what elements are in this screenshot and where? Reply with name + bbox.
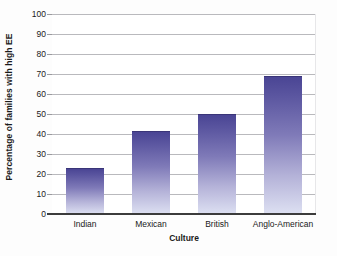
y-axis-tick-label: 70	[20, 70, 46, 79]
y-axis-tick-label: 20	[20, 170, 46, 179]
plot-area	[52, 14, 316, 214]
bar	[132, 131, 170, 214]
y-axis-tick-label: 30	[20, 150, 46, 159]
y-axis-tick-mark	[47, 114, 52, 115]
x-axis-tick-label: Anglo-American	[253, 217, 313, 231]
y-axis-title: Percentage of families with high EE	[0, 0, 18, 214]
y-axis-tick-label: 50	[20, 110, 46, 119]
y-axis-tick-mark	[47, 54, 52, 55]
y-axis-tick-label: 100	[20, 10, 46, 19]
y-axis-tick-mark	[47, 34, 52, 35]
gridline	[52, 54, 315, 55]
y-axis-tick-label: 60	[20, 90, 46, 99]
bar	[66, 168, 104, 214]
y-axis-tick-mark	[47, 14, 52, 15]
x-axis-line	[47, 213, 316, 215]
x-axis-tick-labels: IndianMexicanBritishAnglo-American	[52, 217, 316, 233]
bar	[264, 76, 302, 214]
y-axis-tick-label: 10	[20, 190, 46, 199]
y-axis-title-text: Percentage of families with high EE	[4, 33, 14, 180]
x-axis-tick-label: British	[205, 217, 229, 231]
y-axis-tick-label: 90	[20, 30, 46, 39]
y-axis-tick-mark	[47, 94, 52, 95]
y-axis-tick-mark	[47, 134, 52, 135]
gridline	[52, 14, 315, 15]
y-axis-tick-mark	[47, 74, 52, 75]
y-axis-tick-label: 80	[20, 50, 46, 59]
bar-chart-figure: Percentage of families with high EE 0102…	[0, 0, 337, 256]
x-axis-title: Culture	[52, 233, 316, 243]
y-axis-tick-mark	[47, 174, 52, 175]
x-axis-tick-label: Mexican	[135, 217, 167, 231]
y-axis-tick-labels: 0102030405060708090100	[20, 0, 46, 214]
gridline	[52, 74, 315, 75]
y-axis-tick-label: 40	[20, 130, 46, 139]
y-axis-tick-mark	[47, 154, 52, 155]
x-axis-tick-label: Indian	[73, 217, 96, 231]
gridline	[52, 34, 315, 35]
bar	[198, 114, 236, 214]
y-axis-tick-mark	[47, 194, 52, 195]
y-axis-tick-label: 0	[20, 210, 46, 219]
